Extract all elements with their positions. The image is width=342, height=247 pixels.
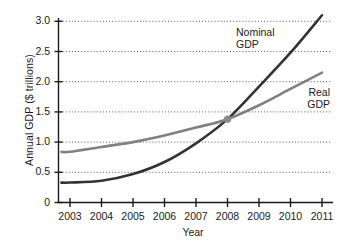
series-line-nominal-gdp	[62, 15, 323, 182]
x-tick-label: 2006	[148, 211, 182, 222]
x-tick-label: 2011	[305, 211, 339, 222]
x-axis-title: Year	[58, 226, 328, 238]
y-tick-label: 2.0	[22, 76, 50, 87]
y-tick-label: 0	[22, 197, 50, 208]
y-tick-label: 0.5	[22, 166, 50, 177]
series-label-nominal-line1: Nominal	[236, 26, 275, 38]
x-tick-label: 2008	[211, 211, 245, 222]
x-tick-label: 2010	[274, 211, 308, 222]
axes-group	[58, 18, 333, 203]
y-tick-label: 2.5	[22, 46, 50, 57]
gdp-line-chart: Annual GDP ($ trillions) Year 00.51.01.5…	[0, 0, 342, 247]
x-tick-label: 2004	[85, 211, 119, 222]
series-paths-group	[62, 15, 323, 182]
y-tick-label: 1.0	[22, 136, 50, 147]
series-label-real-line1: Real	[288, 86, 330, 98]
x-tick-label: 2007	[179, 211, 213, 222]
annotation-markers-group	[224, 116, 231, 123]
crossover-marker	[224, 116, 231, 123]
series-label-nominal-line2: GDP	[236, 38, 275, 50]
x-tick-label: 2005	[116, 211, 150, 222]
x-tick-label: 2003	[53, 211, 87, 222]
series-line-real-gdp	[62, 73, 323, 153]
series-label-nominal-gdp: Nominal GDP	[236, 26, 275, 50]
x-tick-label: 2009	[242, 211, 276, 222]
y-tick-label: 3.0	[22, 15, 50, 26]
y-tick-label: 1.5	[22, 106, 50, 117]
series-label-real-gdp: Real GDP	[288, 86, 330, 110]
series-label-real-line2: GDP	[288, 98, 330, 110]
